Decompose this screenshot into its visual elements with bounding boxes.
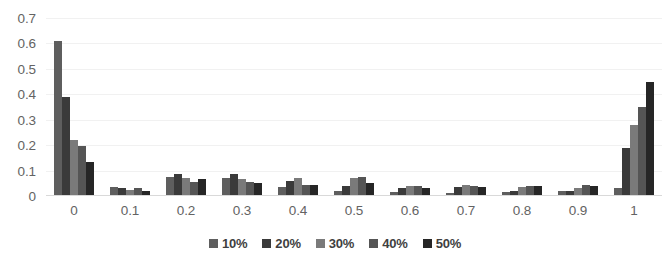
bar[interactable] [62,97,70,196]
bar-group [326,18,382,196]
x-axis-tick-label: 0 [46,198,102,222]
bar[interactable] [222,178,230,196]
bar-group [214,18,270,196]
bar-group-bars [614,18,654,196]
bar[interactable] [190,182,198,196]
y-axis-tick-label: 0 [29,189,36,204]
legend-label: 20% [275,236,300,251]
bar-group [438,18,494,196]
bar[interactable] [182,178,190,196]
bar[interactable] [630,125,638,196]
bar[interactable] [54,41,62,196]
bar-group [158,18,214,196]
chart-legend: 10%20%30%40%50% [0,236,670,251]
bar-group-bars [110,18,150,196]
bar-group-bars [558,18,598,196]
bar[interactable] [238,179,246,196]
bar-group-bars [334,18,374,196]
x-axis-tick-label: 0.7 [438,198,494,222]
bar[interactable] [246,182,254,196]
bar-chart: 0.70.60.50.40.30.20.10 00.10.20.30.40.50… [0,0,670,270]
legend-item[interactable]: 50% [423,236,461,251]
legend-swatch-icon [209,239,218,248]
bar[interactable] [294,178,302,196]
x-axis-tick-label: 0.5 [326,198,382,222]
legend-item[interactable]: 20% [262,236,300,251]
x-axis-tick-label: 1 [606,198,662,222]
bar[interactable] [166,177,174,196]
bar-group-bars [166,18,206,196]
bar[interactable] [638,107,646,196]
bar[interactable] [198,179,206,196]
bar-group-bars [54,18,94,196]
x-axis-tick-label: 0.6 [382,198,438,222]
bar[interactable] [350,178,358,196]
bar[interactable] [86,162,94,196]
x-axis-tick-label: 0.3 [214,198,270,222]
bar[interactable] [70,140,78,196]
x-axis-tick-label: 0.1 [102,198,158,222]
legend-swatch-icon [423,239,432,248]
bar[interactable] [174,174,182,196]
x-axis-tick-label: 0.8 [494,198,550,222]
x-axis: 00.10.20.30.40.50.60.70.80.91 [46,198,662,222]
bar-group [606,18,662,196]
y-axis-tick-label: 0.5 [18,61,36,76]
bar-group [550,18,606,196]
legend-item[interactable]: 10% [209,236,247,251]
bar[interactable] [78,146,86,196]
bar[interactable] [622,148,630,196]
y-axis-tick-label: 0.2 [18,138,36,153]
bars-layer [46,18,662,196]
legend-label: 40% [382,236,407,251]
bar-group [270,18,326,196]
bar-group [102,18,158,196]
legend-swatch-icon [262,239,271,248]
bar-group-bars [502,18,542,196]
bar[interactable] [646,82,654,196]
y-axis-tick-label: 0.4 [18,87,36,102]
legend-label: 50% [436,236,461,251]
legend-item[interactable]: 40% [369,236,407,251]
legend-item[interactable]: 30% [316,236,354,251]
y-axis-tick-label: 0.6 [18,36,36,51]
x-axis-tick-label: 0.4 [270,198,326,222]
y-axis-tick-label: 0.7 [18,11,36,26]
bar-group [382,18,438,196]
bar-group-bars [278,18,318,196]
legend-swatch-icon [316,239,325,248]
bar-group [46,18,102,196]
bar-group [494,18,550,196]
bar[interactable] [358,177,366,196]
legend-label: 30% [329,236,354,251]
x-axis-tick-label: 0.9 [550,198,606,222]
x-axis-tick-label: 0.2 [158,198,214,222]
y-axis-tick-label: 0.1 [18,163,36,178]
legend-label: 10% [222,236,247,251]
bar[interactable] [230,174,238,196]
bar-group-bars [446,18,486,196]
y-axis: 0.70.60.50.40.30.20.10 [0,18,42,196]
bar-group-bars [390,18,430,196]
bar[interactable] [286,181,294,196]
axis-baseline [46,195,662,196]
plot-area [46,18,662,196]
bar-group-bars [222,18,262,196]
y-axis-tick-label: 0.3 [18,112,36,127]
legend-swatch-icon [369,239,378,248]
